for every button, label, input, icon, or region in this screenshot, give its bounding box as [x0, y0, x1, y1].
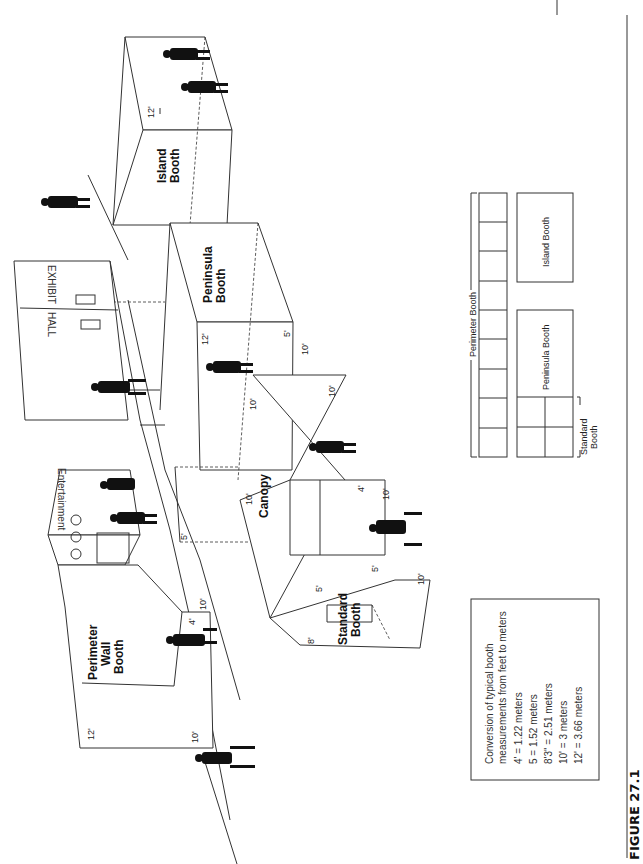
canopy-left-label: 5' [179, 533, 189, 540]
figure-caption-text: FIGURE 27.1 [627, 770, 642, 860]
peninsula-booth-plan-label: Peninsula Booth [541, 324, 551, 390]
canopy-label: Canopy [257, 474, 271, 518]
island-booth-label: Island Booth [155, 145, 182, 183]
island-booth-plan: Island Booth [517, 193, 573, 282]
peninsula-height-label: 12' [200, 333, 210, 345]
conversion-table: Conversion of typical booth measurements… [471, 599, 599, 780]
island-height-label: 12' [146, 106, 156, 118]
perimeter-wall-face [58, 565, 213, 748]
figure-caption: FIGURE 27.1 [627, 770, 642, 860]
peninsula-booth-3d: Peninsula Booth 12' 5' 10' [160, 223, 310, 480]
canopy-dim-c: 10' [244, 493, 254, 505]
floor-edge-line [205, 762, 237, 864]
perimeter-height-label: 12' [86, 728, 96, 740]
standard-booth-plan-label: Standard Booth [579, 416, 599, 455]
exhibit-wall-text: EXHIBIT [46, 265, 57, 304]
conversion-row: 12' = 3.66 meters [573, 687, 584, 764]
peninsula-width-label: 10' [300, 343, 310, 355]
entertainment-screen-panel [48, 535, 140, 565]
perimeter-width-label: 10' [190, 731, 200, 743]
conversion-row: 10' = 3 meters [558, 701, 569, 764]
canopy-front-face [290, 480, 385, 555]
hall-wall-text: HALL [46, 312, 57, 337]
perimeter-booth-plan-label: Perimeter Booth [468, 292, 478, 357]
perimeter-wall-booth-3d: Perimeter Wall Booth 12' 10' 4' 10' [58, 565, 213, 748]
canopy-dim-d: 10' [381, 488, 391, 500]
perimeter-booth-plan: Perimeter Booth [464, 193, 507, 457]
entertainment-wall-text: Entertainment [56, 468, 67, 530]
conversion-row: 8'3" = 2.51 meters [543, 683, 554, 764]
perimeter-side-label: 4' [187, 618, 197, 625]
perimeter-strip [479, 193, 507, 457]
standard-gap-label: 5' [370, 565, 380, 572]
conversion-row: 5 = 1.52 meters [528, 694, 539, 764]
standard-booth-3d: Standard Booth 8' 5' 10' 5' [270, 565, 430, 648]
island-booth-plan-label: Island Booth [541, 217, 551, 267]
canopy-dim-a: 10' [248, 398, 258, 410]
canopy-side-label: 4' [356, 485, 366, 492]
exhibit-hall-wall: EXHIBIT HALL [14, 261, 128, 420]
floorplan-diagram: Perimeter Booth Island Booth Peninsula B… [464, 193, 599, 457]
perimeter-entry-label: 10' [198, 598, 208, 610]
conversion-title: Conversion of typical booth measurements… [484, 611, 508, 764]
standard-width-label: 10' [416, 573, 426, 585]
standard-height-label: 8' [306, 637, 316, 644]
peninsula-top-face [170, 223, 293, 322]
person-icon [195, 746, 255, 768]
person-icon [41, 196, 90, 208]
standard-side-label: 5' [314, 585, 324, 592]
exhibit-hall-door [14, 261, 128, 420]
peninsula-side-label: 5' [282, 330, 292, 337]
peninsula-booth-plan: Peninsula Booth Standard Booth [517, 310, 599, 457]
booth-drawing: Island Booth 12' Peninsula Booth 12' 5' … [14, 37, 430, 864]
canopy-dim-b: 10' [327, 385, 337, 397]
booth-types-figure: FIGURE 27.1 Island Booth 12' [0, 0, 643, 864]
conversion-row: 4' = 1.22 meters [513, 692, 524, 764]
